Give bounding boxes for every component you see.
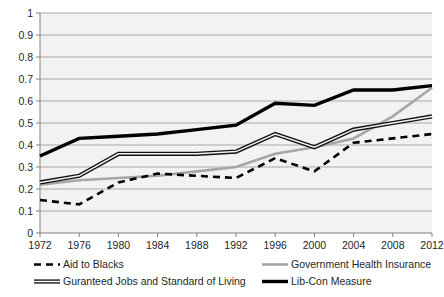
y-axis-tick-label: 0.6 <box>18 95 33 107</box>
y-axis-tick-label: 0.1 <box>18 205 33 217</box>
legend-item-label: Aid to Blacks <box>63 258 124 270</box>
legend-item-label: Lib-Con Measure <box>291 275 372 287</box>
x-axis-tick-labels-group: 1972197619801984198819921996200020042008… <box>28 239 444 251</box>
legend-item-label: Government Health Insurance <box>291 258 431 270</box>
legend-item[interactable]: Government Health Insurance <box>262 258 431 270</box>
x-axis-tick-label: 2008 <box>381 239 405 251</box>
y-axis-ticks-group <box>36 13 40 233</box>
x-axis-tick-label: 1984 <box>146 239 170 251</box>
x-axis-tick-label: 1976 <box>68 239 92 251</box>
x-axis-tick-label: 2000 <box>303 239 327 251</box>
legend: Aid to BlacksGovernment Health Insurance… <box>34 258 431 287</box>
x-axis-ticks-group <box>40 233 432 237</box>
y-axis-tick-label: 0.3 <box>18 161 33 173</box>
y-axis-tick-label: 0.2 <box>18 183 33 195</box>
x-axis-tick-label: 2012 <box>420 239 444 251</box>
legend-item-label: Guranteed Jobs and Standard of Living <box>63 275 246 287</box>
x-axis-tick-label: 1972 <box>28 239 52 251</box>
y-axis-tick-label: 0 <box>27 227 33 239</box>
y-axis-tick-label: 0.8 <box>18 51 33 63</box>
y-axis-tick-labels-group: 00.10.20.30.40.50.60.70.80.91 <box>18 7 33 239</box>
x-axis-tick-label: 2004 <box>342 239 366 251</box>
legend-item[interactable]: Guranteed Jobs and Standard of Living <box>34 275 246 287</box>
chart-canvas: 00.10.20.30.40.50.60.70.80.91 1972197619… <box>0 0 444 297</box>
y-axis-tick-label: 1 <box>27 7 33 19</box>
x-axis-tick-label: 1980 <box>107 239 131 251</box>
legend-item[interactable]: Lib-Con Measure <box>262 275 372 287</box>
x-axis-tick-label: 1992 <box>224 239 248 251</box>
legend-item[interactable]: Aid to Blacks <box>34 258 124 270</box>
y-axis-tick-label: 0.7 <box>18 73 33 85</box>
x-axis-tick-label: 1996 <box>264 239 288 251</box>
y-axis-tick-label: 0.9 <box>18 29 33 41</box>
y-axis-tick-label: 0.4 <box>18 139 33 151</box>
y-axis-tick-label: 0.5 <box>18 117 33 129</box>
line-chart: 00.10.20.30.40.50.60.70.80.91 1972197619… <box>0 0 444 297</box>
x-axis-tick-label: 1988 <box>185 239 209 251</box>
